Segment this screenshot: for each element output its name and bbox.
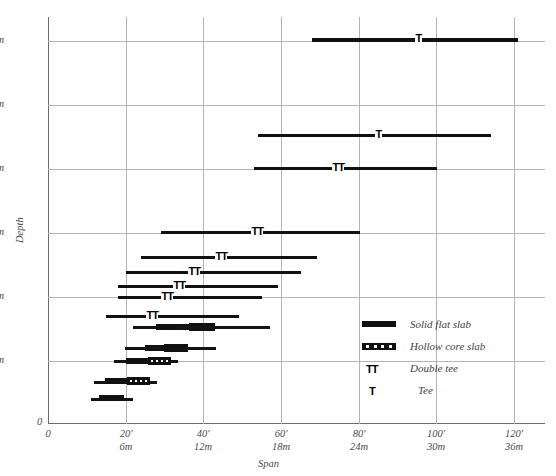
tee-marker-icon: T — [415, 33, 422, 44]
core-void — [166, 360, 168, 363]
legend-label: Double tee — [410, 362, 458, 374]
double-tee-marker-icon: TT — [173, 280, 185, 291]
y-tick-imperial: 32" — [0, 173, 4, 184]
core-void — [381, 345, 384, 348]
x-tick-label: 120' 36m — [484, 428, 544, 453]
double-tee-marker-icon: TT — [188, 266, 200, 277]
y-tick-imperial: 8" — [0, 365, 4, 376]
x-tick-metres: 18m — [251, 441, 311, 454]
x-tick-feet: 120' — [484, 428, 544, 441]
x-tick-label: 60' 18m — [251, 428, 311, 453]
y-tick-metric: 1.0m — [0, 98, 4, 109]
y-tick-metric: 0.8m — [0, 162, 4, 173]
bar-double-tee — [254, 167, 437, 170]
y-tick-label: 0.8m 32" — [0, 162, 4, 184]
gridline-vertical — [359, 17, 360, 424]
double-tee-marker-icon: TT — [146, 310, 158, 321]
y-tick-metric: 0.4m — [0, 290, 4, 301]
legend-entry-tee: T Tee — [362, 382, 532, 404]
bar-solid-flat-slab-thick — [126, 358, 150, 364]
solid-flat-slab-icon — [362, 321, 396, 327]
double-tee-marker-icon: TT — [161, 291, 173, 302]
x-tick-label: 100' 30m — [406, 428, 466, 453]
x-tick-label: 0 — [18, 428, 78, 441]
y-tick-zero: 0 — [37, 416, 42, 427]
core-void — [374, 345, 377, 348]
x-tick-metres: 12m — [173, 441, 233, 454]
legend-entry-double-tee: TT Double tee — [362, 360, 532, 382]
legend-entry-solid-flat-slab: Solid flat slab — [362, 316, 532, 338]
core-void — [130, 380, 132, 383]
y-tick-metric: 0.6m — [0, 226, 4, 237]
legend-label: Solid flat slab — [410, 318, 471, 330]
x-tick-metres: 36m — [484, 441, 544, 454]
y-tick-metric: 0.2m — [0, 354, 4, 365]
x-tick-metres: 24m — [329, 441, 389, 454]
legend: Solid flat slab Hollow core slab TT Doub… — [362, 316, 532, 404]
x-tick-metres: 6m — [96, 441, 156, 454]
x-tick-feet: 80' — [329, 428, 389, 441]
legend-entry-hollow-core-slab: Hollow core slab — [362, 338, 532, 360]
legend-label: Hollow core slab — [410, 340, 485, 352]
bar-double-tee — [126, 271, 301, 274]
bar-hollow-core-slab — [127, 377, 150, 385]
y-tick-imperial: 24" — [0, 237, 4, 248]
x-tick-feet: 0 — [18, 428, 78, 441]
double-tee-marker-icon: TT — [251, 226, 263, 237]
tee-marker-icon: T — [375, 129, 382, 140]
legend-label: Tee — [418, 384, 433, 396]
bar-hollow-core-slab — [148, 357, 171, 365]
core-void — [140, 380, 142, 383]
x-tick-metres: 30m — [406, 441, 466, 454]
y-tick-label: 1.2 m 48" — [0, 34, 4, 56]
gridline-horizontal — [48, 105, 545, 106]
x-tick-feet: 20' — [96, 428, 156, 441]
bar-solid-flat-slab — [174, 326, 270, 329]
core-void — [389, 345, 392, 348]
gridline-vertical — [203, 17, 204, 424]
bar-solid-flat-slab-thick — [99, 395, 124, 401]
x-axis-title: Span — [258, 458, 279, 469]
y-axis-line — [48, 17, 49, 424]
core-void — [161, 360, 163, 363]
bar-double-tee — [141, 256, 317, 259]
y-tick-label: 1.0m 40" — [0, 98, 4, 120]
y-tick-imperial: 40" — [0, 109, 4, 120]
y-tick-label: 0.4m 16" — [0, 290, 4, 312]
double-tee-icon: TT — [366, 363, 377, 375]
tee-icon: T — [369, 385, 375, 397]
core-void — [151, 360, 153, 363]
double-tee-marker-icon: TT — [332, 162, 344, 173]
x-tick-feet: 40' — [173, 428, 233, 441]
core-void — [135, 380, 137, 383]
y-tick-label: 0.2m 8" — [0, 354, 4, 376]
y-tick-metric: 1.2 m — [0, 34, 4, 45]
y-axis-title: Depth — [14, 217, 25, 243]
x-tick-label: 40' 12m — [173, 428, 233, 453]
x-tick-feet: 60' — [251, 428, 311, 441]
core-void — [366, 345, 369, 348]
core-void — [145, 380, 147, 383]
x-tick-label: 80' 24m — [329, 428, 389, 453]
bar-double-tee — [106, 315, 239, 318]
double-tee-marker-icon: TT — [215, 251, 227, 262]
y-tick-label: 0.6m 24" — [0, 226, 4, 248]
x-axis-line — [48, 423, 545, 424]
x-tick-label: 20' 6m — [96, 428, 156, 453]
hollow-core-slab-icon — [362, 343, 396, 350]
gridline-vertical — [281, 17, 282, 424]
y-tick-imperial: 48" — [0, 45, 4, 56]
bar-solid-flat-slab — [142, 347, 216, 350]
span-depth-chart: Depth 1.2 m 48" 1.0m 40" 0.8m 32" 0.6m 2… — [0, 0, 556, 476]
x-tick-feet: 100' — [406, 428, 466, 441]
bar-double-tee — [118, 285, 278, 288]
y-tick-imperial: 16" — [0, 301, 4, 312]
bar-double-tee — [118, 296, 262, 299]
core-void — [156, 360, 158, 363]
bar-solid-flat-slab-thick — [105, 378, 129, 384]
